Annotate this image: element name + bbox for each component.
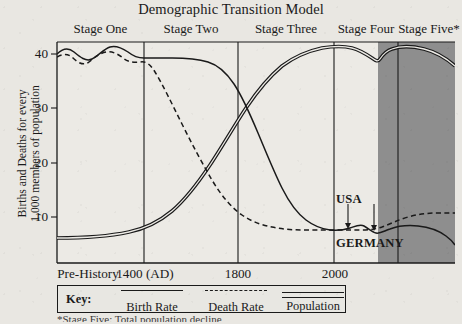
legend-label-death-rate: Death Rate [208,300,263,314]
legend-swatch-double [282,292,344,298]
chart-canvas [0,0,462,324]
legend-item-population: Population [272,290,354,314]
chart-legend: Key: Birth Rate Death Rate Population [57,285,346,313]
annotation-usa: USA [336,192,362,207]
annotation-germany: GERMANY [336,236,404,251]
legend-label-birth-rate: Birth Rate [126,300,177,314]
legend-key-label: Key: [66,292,91,307]
legend-swatch-dashed [205,290,267,299]
legend-label-population: Population [286,299,340,313]
legend-item-death-rate: Death Rate [194,290,278,315]
legend-item-birth-rate: Birth Rate [110,290,194,315]
footnote: *Stage Five: Total population decline [57,313,222,322]
legend-swatch-solid [121,290,183,299]
